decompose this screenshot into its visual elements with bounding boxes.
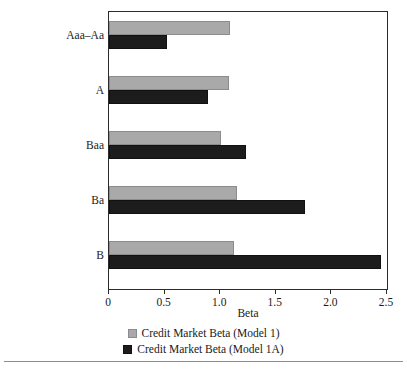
bar [109,35,167,49]
x-tick-mark [275,290,276,294]
legend-swatch-model-1 [128,329,137,338]
bar [109,186,237,200]
legend-label-model-1: Credit Market Beta (Model 1) [142,325,280,341]
y-axis-label-0: Aaa–Aa [4,29,104,41]
bar-group [109,131,387,159]
y-axis-label-2: Baa [4,139,104,151]
bar-group [109,21,387,49]
y-axis-category-labels: Aaa–AaABaaBaB [0,0,104,373]
legend-swatch-model-1a [123,345,132,354]
x-tick-mark [164,290,165,294]
bar-group [109,186,387,214]
x-tick-mark [219,290,220,294]
chart-figure: Aaa–AaABaaBaB 00.51.01.52.02.5 Beta Cred… [0,0,407,373]
bottom-divider [4,361,403,362]
y-axis-label-1: A [4,84,104,96]
bars-layer [109,12,387,289]
x-tick-mark [108,290,109,294]
bar-group [109,241,387,269]
y-axis-label-3: Ba [4,194,104,206]
bar [109,241,234,255]
legend-label-model-1a: Credit Market Beta (Model 1A) [137,341,283,357]
bar [109,76,229,90]
legend-item-model-1: Credit Market Beta (Model 1) [0,325,407,341]
chart-legend: Credit Market Beta (Model 1) Credit Mark… [0,325,407,357]
x-tick-mark [386,290,387,294]
bar [109,145,246,159]
legend-item-model-1a: Credit Market Beta (Model 1A) [0,341,407,357]
x-axis-title: Beta [108,306,388,320]
bar [109,90,208,104]
x-tick-mark [330,290,331,294]
bar [109,200,305,214]
bar [109,255,381,269]
bar-group [109,76,387,104]
bar [109,21,230,35]
bar [109,131,221,145]
y-axis-label-4: B [4,249,104,261]
